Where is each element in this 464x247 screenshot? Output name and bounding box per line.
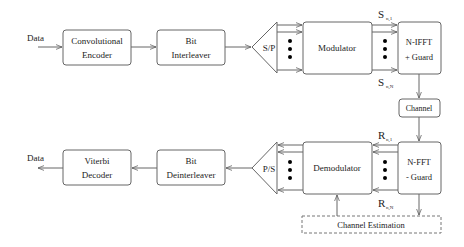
ifft-label-1: N-IFFT <box>406 37 433 47</box>
deinterleaver-block: Bit Deinterleaver <box>157 150 225 185</box>
deinterleaver-label-1: Bit <box>185 156 197 166</box>
ellipsis-dot <box>288 160 292 164</box>
decoder-label-1: Viterbi <box>85 156 110 166</box>
r-sub: n,N <box>386 205 394 211</box>
interleaver-label-1: Bit <box>185 36 197 46</box>
ellipsis-dot <box>383 55 387 59</box>
ellipsis-dot <box>288 176 292 180</box>
signal-r-bottom: R n,N <box>378 197 394 211</box>
conv-encoder-block: Convolutional Encoder <box>63 30 131 65</box>
conv-encoder-label-2: Encoder <box>82 50 112 60</box>
fft-label-1: N-FFT <box>407 157 431 167</box>
s-label: S <box>378 8 384 20</box>
ellipsis-dot <box>383 176 387 180</box>
ifft-box <box>398 22 441 74</box>
channel-estimation-block: Channel Estimation <box>302 216 441 233</box>
s-sub: n,1 <box>386 16 393 22</box>
rx-data-label: Data <box>27 153 44 163</box>
ofdm-diagram: Data Convolutional Encoder Bit Interleav… <box>0 0 464 247</box>
channel-estimation-label: Channel Estimation <box>337 220 405 230</box>
tx-input: Data <box>27 33 62 47</box>
signal-s-top: S n,1 <box>378 8 393 22</box>
r-label: R <box>378 129 386 141</box>
sp-label: S/P <box>263 43 276 53</box>
ellipsis-dot <box>383 168 387 172</box>
signal-r-top: R n,1 <box>378 129 393 143</box>
signal-s-bottom: S n,N <box>378 76 394 90</box>
ellipsis-dot <box>383 47 387 51</box>
ellipsis-dot <box>288 39 292 43</box>
s-label: S <box>378 76 384 88</box>
s-sub: n,N <box>386 84 394 90</box>
ellipsis-dot <box>383 160 387 164</box>
tx-data-label: Data <box>27 33 44 43</box>
fft-block: N-FFT - Guard <box>398 142 441 194</box>
ps-label: P/S <box>263 164 276 174</box>
fft-label-2: - Guard <box>406 172 433 182</box>
decoder-label-2: Decoder <box>82 170 112 180</box>
interleaver-label-2: Interleaver <box>172 50 211 60</box>
channel-block: Channel <box>399 99 440 117</box>
r-sub: n,1 <box>386 137 393 143</box>
modulator-block: Modulator <box>303 22 372 74</box>
deinterleaver-label-2: Deinterleaver <box>167 170 216 180</box>
ellipsis-dot <box>288 55 292 59</box>
channel-label: Channel <box>406 104 433 113</box>
fft-box <box>398 142 441 194</box>
ps-block: P/S <box>252 142 277 194</box>
demodulator-block: Demodulator <box>303 142 372 194</box>
ellipsis-dot <box>288 168 292 172</box>
demodulator-label: Demodulator <box>313 163 361 173</box>
ellipsis-dot <box>383 39 387 43</box>
ifft-block: N-IFFT + Guard <box>398 22 441 74</box>
decoder-block: Viterbi Decoder <box>63 150 131 185</box>
r-label: R <box>378 197 386 209</box>
interleaver-block: Bit Interleaver <box>157 30 225 65</box>
sp-block: S/P <box>252 22 277 73</box>
modulator-label: Modulator <box>318 43 356 53</box>
ellipsis-dot <box>288 47 292 51</box>
conv-encoder-label-1: Convolutional <box>71 36 123 46</box>
ifft-label-2: + Guard <box>405 52 434 62</box>
rx-output: Data <box>27 153 63 168</box>
